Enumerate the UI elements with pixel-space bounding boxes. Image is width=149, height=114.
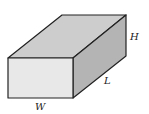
rectangular-prism-diagram: H L W (0, 0, 149, 114)
length-label: L (103, 75, 111, 86)
front-face (8, 58, 73, 98)
width-label: W (35, 101, 46, 112)
height-label: H (129, 31, 139, 42)
